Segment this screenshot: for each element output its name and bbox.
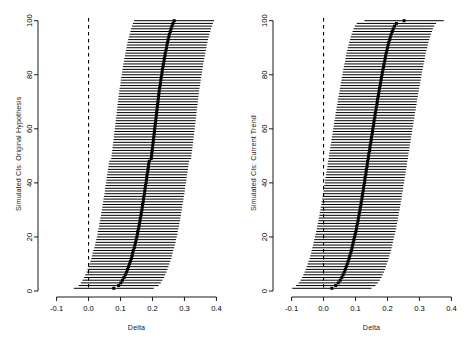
point-estimate-marker: [159, 84, 162, 87]
x-axis-tick-label: 0.4: [211, 304, 222, 313]
point-estimate-marker: [379, 84, 382, 87]
point-estimate-marker: [153, 127, 156, 130]
point-estimate-marker: [151, 146, 154, 149]
point-estimate-marker: [167, 38, 170, 41]
point-estimate-marker: [142, 198, 145, 201]
x-axis-title-original-hypothesis: Delta: [47, 323, 226, 332]
point-estimate-marker: [369, 141, 372, 144]
point-estimate-marker: [381, 71, 384, 74]
point-estimate-marker: [152, 141, 155, 144]
point-estimate-marker: [160, 73, 163, 76]
point-estimate-marker: [377, 95, 380, 98]
point-estimate-marker: [374, 111, 377, 114]
point-estimate-marker: [379, 81, 382, 84]
point-estimate-marker: [373, 117, 376, 120]
point-estimate-marker: [354, 230, 357, 233]
point-estimate-marker: [383, 60, 386, 63]
point-estimate-marker: [362, 184, 365, 187]
point-estimate-marker: [367, 152, 370, 155]
point-estimate-marker: [129, 260, 132, 263]
point-estimate-marker: [358, 214, 361, 217]
point-estimate-marker: [173, 19, 176, 22]
point-estimate-marker: [382, 65, 385, 68]
point-estimate-marker: [152, 138, 155, 141]
point-estimate-marker: [144, 184, 147, 187]
point-estimate-marker: [161, 71, 164, 74]
point-estimate-marker: [133, 246, 136, 249]
point-estimate-marker: [156, 100, 159, 103]
point-estimate-marker: [142, 200, 145, 203]
point-estimate-marker: [165, 46, 168, 49]
point-estimate-marker: [134, 241, 137, 244]
point-estimate-marker: [344, 268, 347, 271]
point-estimate-marker: [128, 262, 131, 265]
point-estimate-marker: [361, 195, 364, 198]
point-estimate-marker: [147, 162, 150, 165]
point-estimate-marker: [159, 81, 162, 84]
point-estimate-marker: [357, 217, 360, 220]
point-estimate-marker: [395, 22, 398, 25]
point-estimate-marker: [144, 187, 147, 190]
point-estimate-marker: [124, 273, 127, 276]
point-estimate-marker: [376, 100, 379, 103]
point-estimate-marker: [163, 57, 166, 60]
point-estimate-marker: [161, 68, 164, 71]
point-estimate-marker: [151, 149, 154, 152]
point-estimate-marker: [170, 27, 173, 30]
x-axis-tick-label: 0.2: [147, 304, 158, 313]
point-estimate-marker: [162, 65, 165, 68]
point-estimate-marker: [385, 49, 388, 52]
point-estimate-marker: [155, 108, 158, 111]
y-axis-tick-label: 100: [25, 14, 34, 27]
point-estimate-marker: [155, 114, 158, 117]
point-estimate-marker: [130, 257, 133, 260]
point-estimate-marker: [131, 252, 134, 255]
point-estimate-marker: [153, 130, 156, 133]
x-axis-tick-label: 0.0: [83, 304, 94, 313]
point-estimate-marker: [375, 106, 378, 109]
point-estimate-marker: [138, 225, 141, 228]
point-estimate-marker: [366, 165, 369, 168]
point-estimate-marker: [358, 211, 361, 214]
point-estimate-marker: [386, 46, 389, 49]
point-estimate-marker: [160, 76, 163, 79]
point-estimate-marker: [352, 241, 355, 244]
point-estimate-marker: [340, 276, 343, 279]
point-estimate-marker: [393, 25, 396, 28]
point-estimate-marker: [359, 206, 362, 209]
point-estimate-marker: [362, 187, 365, 190]
y-axis-tick-label: 40: [260, 179, 269, 187]
point-estimate-marker: [112, 287, 115, 290]
x-axis-tick-label: -0.1: [285, 304, 298, 313]
point-estimate-marker: [368, 146, 371, 149]
point-estimate-marker: [140, 211, 143, 214]
point-estimate-marker: [374, 108, 377, 111]
point-estimate-marker: [346, 262, 349, 265]
point-estimate-marker: [146, 171, 149, 174]
point-estimate-marker: [360, 198, 363, 201]
point-estimate-marker: [164, 52, 167, 55]
point-estimate-marker: [382, 68, 385, 71]
point-estimate-marker: [166, 41, 169, 44]
point-estimate-marker: [148, 160, 151, 163]
x-axis-tick-label: -0.1: [50, 304, 63, 313]
point-estimate-marker: [123, 276, 126, 279]
point-estimate-marker: [371, 127, 374, 130]
point-estimate-marker: [359, 203, 362, 206]
point-estimate-marker: [358, 208, 361, 211]
point-estimate-marker: [150, 154, 153, 157]
point-estimate-marker: [365, 168, 368, 171]
point-estimate-marker: [143, 192, 146, 195]
point-estimate-marker: [168, 33, 171, 36]
point-estimate-marker: [132, 249, 135, 252]
point-estimate-marker: [163, 54, 166, 57]
y-axis-tick-label: 100: [260, 14, 269, 27]
confidence-interval-lines: [74, 19, 214, 290]
point-estimate-marker: [357, 219, 360, 222]
point-estimate-marker: [157, 92, 160, 95]
point-estimate-marker: [155, 111, 158, 114]
point-estimate-marker: [167, 35, 170, 38]
point-estimate-marker: [147, 168, 150, 171]
point-estimate-marker: [137, 227, 140, 230]
point-estimate-marker: [156, 103, 159, 106]
